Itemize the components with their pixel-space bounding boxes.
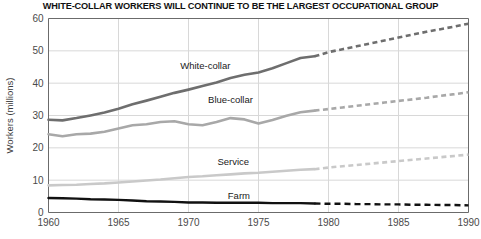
y-tick-label: 30 [32, 110, 44, 121]
series-label-farm: Farm [228, 190, 250, 201]
series-line-blue-collar [49, 111, 315, 137]
x-tick-label: 1960 [37, 217, 60, 228]
series-label-blue-collar: Blue-collar [208, 94, 253, 105]
y-tick-label: 20 [32, 142, 44, 153]
series-label-white-collar: White-collar [180, 60, 230, 71]
series-line-service [49, 169, 315, 185]
y-tick-label: 10 [32, 175, 44, 186]
y-tick-label: 60 [32, 13, 44, 24]
x-tick-label: 1970 [177, 217, 200, 228]
series-projection-white-collar [315, 24, 469, 57]
tick-labels: 0102030405060196019651970197519801985199… [32, 13, 480, 227]
x-tick-label: 1990 [457, 217, 480, 228]
series-projection-service [315, 155, 469, 170]
series-line-farm [49, 198, 315, 204]
x-tick-label: 1985 [387, 217, 410, 228]
series-label-service: Service [217, 156, 249, 167]
x-tick-label: 1975 [247, 217, 270, 228]
line-chart-plot: 0102030405060196019651970197519801985199… [0, 0, 481, 239]
y-tick-label: 40 [32, 78, 44, 89]
x-tick-label: 1980 [317, 217, 340, 228]
x-tick-label: 1965 [107, 217, 130, 228]
y-tick-label: 50 [32, 45, 44, 56]
y-axis-title-text: Workers (millions) [4, 78, 15, 154]
series-projection-farm [315, 203, 469, 205]
y-axis-title: Workers (millions) [4, 78, 15, 154]
chart-container: WHITE-COLLAR WORKERS WILL CONTINUE TO BE… [0, 0, 481, 239]
series-projection-blue-collar [315, 92, 469, 110]
